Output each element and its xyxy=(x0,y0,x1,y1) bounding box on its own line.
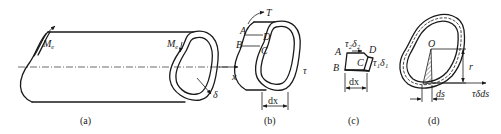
label-origin: O xyxy=(428,38,435,49)
label-b-dx: dx xyxy=(268,95,278,106)
torsion-figure: Me Me x δ (a) T A B C D τ dx (b) A B xyxy=(0,0,501,134)
label-force: τδds xyxy=(472,88,489,99)
label-b-A: A xyxy=(239,25,247,36)
caption-a: (a) xyxy=(80,115,91,127)
label-moment-left: Me xyxy=(42,38,54,50)
caption-b: (b) xyxy=(264,115,276,127)
hatched-triangle xyxy=(423,49,432,84)
label-b-D: D xyxy=(262,31,271,42)
label-moment-right: Me xyxy=(166,38,178,50)
label-arc: ds xyxy=(436,88,445,99)
label-c-A: A xyxy=(334,46,342,57)
caption-d: (d) xyxy=(428,115,440,127)
label-c-dx: dx xyxy=(349,76,359,87)
label-c-B: B xyxy=(333,62,339,73)
label-b-B: B xyxy=(236,39,242,50)
label-c-D: D xyxy=(368,44,377,55)
moment-right-arrow xyxy=(180,42,182,52)
label-shear: τ xyxy=(303,65,307,76)
label-torque: T xyxy=(266,7,273,18)
label-c-C: C xyxy=(357,57,364,68)
label-top-flow: τ₂δ₂ xyxy=(345,38,361,49)
label-side-flow: τ₁δ₁ xyxy=(373,57,388,68)
caption-c: (c) xyxy=(348,115,359,127)
label-thickness: δ xyxy=(213,89,218,100)
label-b-C: C xyxy=(261,45,268,56)
label-radius: r xyxy=(469,61,473,72)
